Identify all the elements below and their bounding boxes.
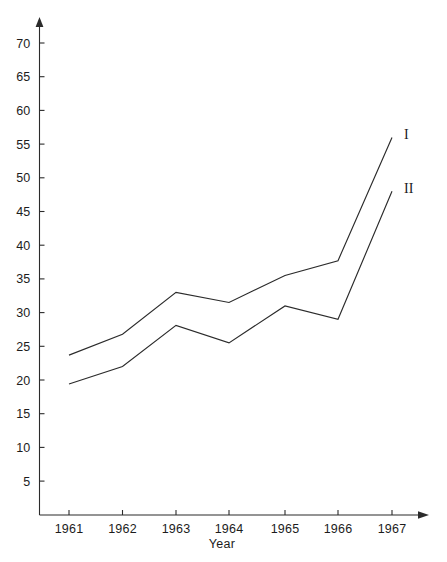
x-tick-label: 1966 [324,522,353,536]
x-tick-label: 1964 [215,522,244,536]
line-chart: 510152025303540455055606570 196119621963… [0,0,447,562]
y-tick-label: 20 [16,374,30,388]
x-tick-label: 1962 [108,522,137,536]
y-tick-label: 65 [16,70,30,84]
y-tick-label: 35 [16,272,30,286]
y-tick-label: 50 [16,171,30,185]
y-tick-label: 55 [16,138,30,152]
chart-canvas: 510152025303540455055606570 196119621963… [0,0,447,562]
y-tick-label: 60 [16,104,30,118]
series-label-i: I [404,127,409,142]
y-tick-label: 45 [16,205,30,219]
series-label-ii: II [404,181,414,196]
y-tick-label: 40 [16,239,30,253]
chart-background [0,0,447,562]
y-tick-label: 30 [16,306,30,320]
x-tick-label: 1963 [162,522,191,536]
x-tick-label: 1965 [271,522,300,536]
y-tick-label: 10 [16,441,30,455]
x-axis-title: Year [209,537,235,551]
y-tick-label: 5 [23,475,30,489]
y-tick-label: 70 [16,37,30,51]
x-tick-label: 1967 [378,522,407,536]
y-tick-label: 15 [16,407,30,421]
y-tick-label: 25 [16,340,30,354]
x-tick-label: 1961 [55,522,84,536]
